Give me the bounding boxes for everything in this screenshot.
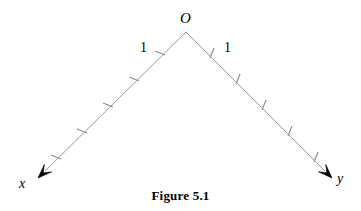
y-axis-ray-tick-2 <box>236 74 240 84</box>
y-axis-ray-tick-4 <box>288 126 292 136</box>
x-axis-ray-shaft <box>45 32 186 171</box>
unit-tick-label-left: 1 <box>140 41 147 55</box>
y-axis-ray <box>186 32 332 178</box>
y-axis-ray-tick-3 <box>262 100 266 110</box>
x-axis-ray <box>38 32 186 178</box>
x-axis-ray-tick-2 <box>129 77 139 81</box>
y-axis-label: y <box>337 172 343 186</box>
figure-container: O x y 1 1 Figure 5.1 <box>0 0 361 211</box>
y-axis-ray-shaft <box>186 32 325 171</box>
unit-tick-label-right: 1 <box>224 41 231 55</box>
origin-label: O <box>180 11 191 26</box>
y-axis-ray-tick-5 <box>314 152 318 162</box>
y-axis-ray-tick-1 <box>210 48 214 58</box>
x-axis-ray-tick-1 <box>155 51 165 55</box>
figure-caption: Figure 5.1 <box>0 188 361 204</box>
figure-drawing-canvas <box>0 0 361 211</box>
